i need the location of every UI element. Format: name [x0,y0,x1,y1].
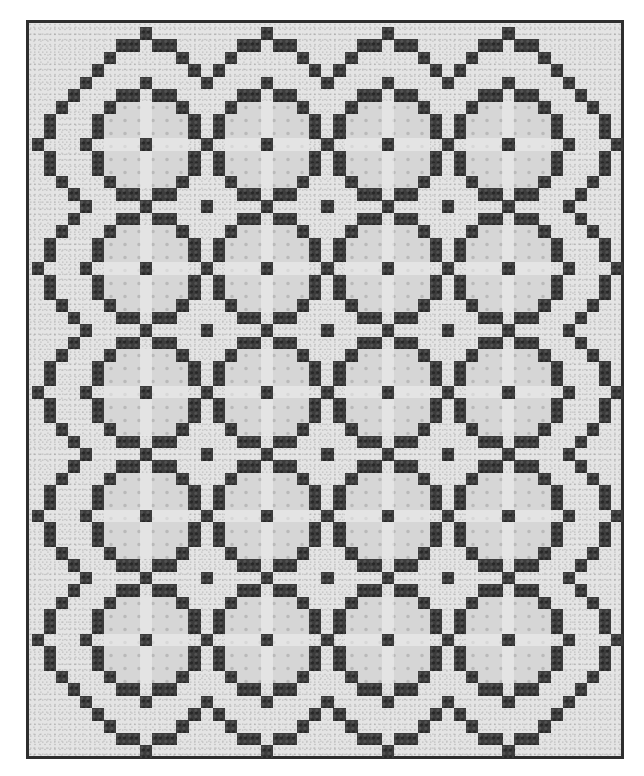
dark-square [188,126,200,139]
dark-square [285,460,297,473]
dark-square [599,250,611,263]
dark-square [490,733,502,746]
dark-square [321,448,333,461]
dark-square [261,510,273,523]
dark-square [201,262,213,275]
dark-square [44,238,56,251]
dark-square [333,708,345,721]
dark-square [56,299,68,312]
dark-square [406,584,418,597]
dark-square [225,225,237,238]
dark-square [213,287,225,300]
dark-square [370,337,382,350]
dark-square [406,733,418,746]
dark-square [333,361,345,374]
dark-square [188,535,200,548]
dark-square [406,213,418,226]
dark-square [490,584,502,597]
dark-square [575,559,587,572]
dark-square [333,522,345,535]
dark-square [611,634,623,647]
dark-square [213,374,225,387]
dark-square [152,312,164,325]
dark-square [454,238,466,251]
dark-square [551,411,563,424]
dark-square [563,324,575,337]
dark-square [128,460,140,473]
dark-square [152,213,164,226]
dark-square [285,89,297,102]
dark-square [32,138,44,151]
dark-square [357,683,369,696]
dark-square [297,101,309,114]
dark-square [526,213,538,226]
dark-square [140,200,152,213]
dark-square [333,497,345,510]
dark-square [92,151,104,164]
dark-square [32,262,44,275]
dark-square [575,337,587,350]
dark-square [128,584,140,597]
dark-square [116,559,128,572]
dark-square [188,708,200,721]
dark-square [394,89,406,102]
dark-square [490,460,502,473]
dark-square [164,436,176,449]
dark-square [430,64,442,77]
dark-square [309,287,321,300]
dark-square [406,436,418,449]
dark-square [526,733,538,746]
dark-square [333,250,345,263]
dark-square [382,696,394,709]
dark-square [321,634,333,647]
dark-square [599,411,611,424]
dark-square [514,213,526,226]
dark-square [285,584,297,597]
dark-square [128,39,140,52]
dark-square [370,89,382,102]
dark-square [92,398,104,411]
dark-square [551,398,563,411]
dark-square [333,114,345,127]
dark-square [442,386,454,399]
dark-square [345,101,357,114]
dark-square [418,597,430,610]
dark-square [345,597,357,610]
dark-square [599,658,611,671]
dark-square [551,497,563,510]
dark-square [502,200,514,213]
dark-square [201,200,213,213]
dark-square [188,497,200,510]
dark-square [225,349,237,362]
dark-square [213,609,225,622]
dark-square [213,250,225,263]
dark-square [140,696,152,709]
dark-square [418,299,430,312]
dark-square [44,361,56,374]
dark-square [587,423,599,436]
dark-square [285,213,297,226]
dark-square [538,547,550,560]
dark-square [599,609,611,622]
dark-square [575,584,587,597]
dark-square [309,621,321,634]
dark-square [357,188,369,201]
dark-square [297,671,309,684]
dark-square [563,572,575,585]
dark-square [140,510,152,523]
dark-square [68,559,80,572]
dark-square [551,126,563,139]
dark-square [551,609,563,622]
dark-square [394,188,406,201]
dark-square [80,696,92,709]
dark-square [526,89,538,102]
dark-square [611,510,623,523]
dark-square [406,559,418,572]
dark-square [68,584,80,597]
dark-square [611,262,623,275]
dark-square [599,114,611,127]
dark-square [140,138,152,151]
dark-square [466,597,478,610]
dark-square [599,522,611,535]
dark-square [237,39,249,52]
